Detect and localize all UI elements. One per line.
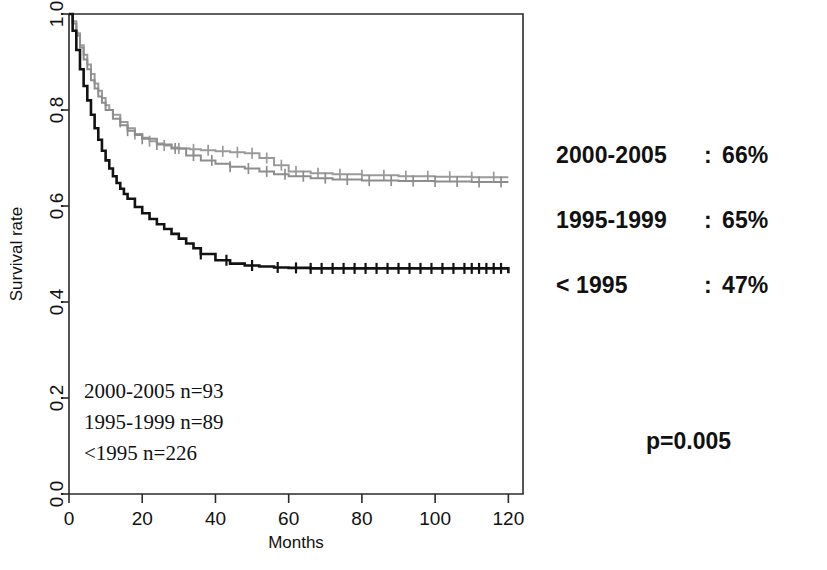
in-plot-annotations: 2000-2005 n=931995-1999 n=89<1995 n=226 [84, 379, 224, 465]
x-axis-ticks: 020406080100120 [64, 494, 524, 529]
x-tick-label: 80 [351, 508, 372, 529]
y-tick-label: 0.4 [46, 288, 67, 315]
x-tick-label: 100 [419, 508, 451, 529]
survival-figure-page: 0.00.20.40.60.81.0 020406080100120 2000-… [0, 0, 827, 570]
summary-row: < 1995 : 47% [556, 272, 824, 299]
plot-annotation: 1995-1999 n=89 [84, 410, 224, 434]
y-axis-ticks: 0.00.20.40.60.81.0 [46, 1, 70, 507]
x-tick-label: 40 [205, 508, 226, 529]
y-tick-label: 0.2 [46, 385, 67, 411]
summary-label: < 1995 [556, 272, 704, 299]
summary-value: 47% [722, 272, 768, 299]
summary-label: 1995-1999 [556, 207, 704, 234]
km-plot-svg: 0.00.20.40.60.81.0 020406080100120 2000-… [0, 0, 560, 570]
summary-row: 1995-1999 : 65% [556, 207, 824, 234]
censor-marks [120, 117, 493, 183]
summary-label: 2000-2005 [556, 142, 704, 169]
x-tick-label: 120 [493, 508, 525, 529]
y-tick-label: 0.6 [46, 193, 67, 219]
x-tick-label: 60 [278, 508, 299, 529]
kaplan-meier-chart: 0.00.20.40.60.81.0 020406080100120 2000-… [0, 0, 560, 570]
summary-separator: : [704, 142, 722, 169]
y-tick-label: 0.8 [46, 97, 67, 123]
y-tick-label: 0.0 [46, 481, 67, 507]
survival-curves [69, 14, 508, 274]
summary-separator: : [704, 272, 722, 299]
survival-curve-1995-1999 [69, 14, 508, 182]
summary-value: 65% [722, 207, 768, 234]
summary-separator: : [704, 207, 722, 234]
x-tick-label: 20 [132, 508, 153, 529]
y-tick-label: 1.0 [46, 1, 67, 27]
censor-marks [201, 249, 501, 274]
survival-curve-2000-2005 [69, 14, 508, 177]
p-value-text: p=0.005 [646, 428, 731, 455]
summary-value: 66% [722, 142, 768, 169]
plot-annotation: <1995 n=226 [84, 441, 197, 465]
x-axis-title: Months [268, 533, 324, 552]
cohort-summary-panel: 2000-2005 : 66% 1995-1999 : 65% < 1995 :… [556, 142, 824, 337]
x-tick-label: 0 [64, 508, 75, 529]
y-axis-title: Survival rate [7, 207, 26, 301]
summary-row: 2000-2005 : 66% [556, 142, 824, 169]
survival-curve-pre1995 [69, 14, 508, 273]
plot-annotation: 2000-2005 n=93 [84, 379, 224, 403]
